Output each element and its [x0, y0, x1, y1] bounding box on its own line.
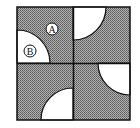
quarter-circle-diagram: A B	[0, 0, 140, 128]
label-b: B	[27, 46, 34, 57]
label-a: A	[48, 24, 56, 35]
